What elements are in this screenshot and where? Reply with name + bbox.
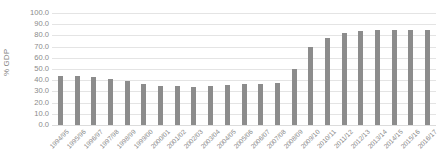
bar	[175, 86, 180, 125]
bar	[91, 77, 96, 125]
bars-layer	[52, 13, 436, 125]
bar	[358, 31, 363, 125]
y-axis-tick-label: 100.0	[30, 9, 49, 17]
bar	[108, 79, 113, 125]
y-axis-tick-label: 40.0	[34, 76, 49, 84]
y-axis-tick-label: 90.0	[34, 20, 49, 28]
y-axis-tick-label: 70.0	[34, 43, 49, 51]
bar	[392, 30, 397, 125]
bar	[158, 86, 163, 125]
bar	[58, 76, 63, 125]
bar	[225, 85, 230, 125]
bar	[141, 84, 146, 125]
bar	[191, 87, 196, 125]
y-axis-title: % GDP	[0, 0, 14, 125]
bar	[425, 30, 430, 125]
bar	[292, 69, 297, 125]
bar	[242, 84, 247, 125]
bar	[408, 30, 413, 125]
y-axis-title-label: % GDP	[3, 49, 12, 76]
bar	[258, 84, 263, 125]
bar	[208, 86, 213, 125]
bar	[375, 30, 380, 125]
x-axis-tick-labels: 1994/951995/961996/971997/981998/991999/…	[52, 126, 436, 161]
y-axis-tick-label: 20.0	[34, 99, 49, 107]
y-axis-tick-label: 50.0	[34, 65, 49, 73]
bar	[125, 81, 130, 125]
bar	[325, 38, 330, 125]
y-axis-tick-labels: 100.090.080.070.060.050.040.030.020.010.…	[14, 0, 52, 131]
bar	[75, 76, 80, 125]
y-axis-tick-label: 0.0	[38, 121, 49, 129]
y-axis-tick-label: 10.0	[34, 110, 49, 118]
y-axis-tick-label: 30.0	[34, 87, 49, 95]
y-axis-tick-label: 60.0	[34, 54, 49, 62]
bar	[342, 33, 347, 125]
bar	[275, 83, 280, 125]
bar-chart: % GDP 100.090.080.070.060.050.040.030.02…	[0, 0, 444, 161]
plot-area	[52, 13, 436, 125]
y-axis-tick-label: 80.0	[34, 31, 49, 39]
bar	[308, 47, 313, 125]
